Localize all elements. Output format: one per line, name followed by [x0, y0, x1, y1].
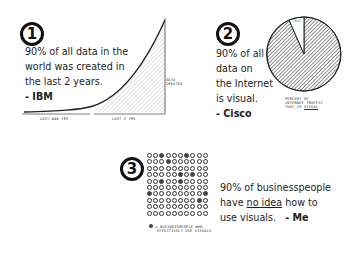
empty-dot — [159, 211, 164, 216]
empty-dot — [153, 166, 158, 171]
empty-dot — [197, 211, 202, 216]
dot-grid-legend: = BUSINESSPEOPLE WHO EFFECTIVELY USE VIS… — [149, 224, 211, 233]
filled-dot — [178, 172, 183, 177]
empty-dot — [159, 166, 164, 171]
filled-dot — [147, 191, 152, 196]
empty-dot — [172, 191, 177, 196]
empty-dot — [178, 191, 183, 196]
empty-dot — [172, 185, 177, 190]
pie-caption: PERCENT OF INTERNET TRAFFIC THAT IS VISU… — [285, 97, 323, 109]
empty-dot — [166, 185, 171, 190]
empty-dot — [184, 204, 189, 209]
empty-dot — [153, 172, 158, 177]
empty-dot — [184, 185, 189, 190]
empty-dot — [203, 185, 208, 190]
empty-dot — [166, 166, 171, 171]
filled-dot — [178, 179, 183, 184]
empty-dot — [184, 172, 189, 177]
pie-slice-label-text: TEXT — [293, 19, 301, 23]
empty-dot — [166, 198, 171, 203]
filled-dot — [166, 159, 171, 164]
empty-dot — [197, 172, 202, 177]
empty-dot — [197, 159, 202, 164]
empty-dot — [197, 179, 202, 184]
x-label-last-2-years: LAST 2 YRS — [112, 117, 136, 121]
empty-dot — [147, 185, 152, 190]
empty-dot — [153, 179, 158, 184]
empty-dot — [153, 204, 158, 209]
empty-dot — [190, 166, 195, 171]
empty-dot — [147, 204, 152, 209]
empty-dot — [197, 204, 202, 209]
empty-dot — [203, 198, 208, 203]
empty-dot — [166, 204, 171, 209]
empty-dot — [159, 198, 164, 203]
stat-cisco: 90% of all data on the Internet is visua… — [216, 46, 273, 121]
empty-dot — [190, 198, 195, 203]
empty-dot — [172, 179, 177, 184]
empty-dot — [166, 191, 171, 196]
empty-dot — [159, 172, 164, 177]
empty-dot — [166, 172, 171, 177]
empty-dot — [153, 198, 158, 203]
empty-dot — [147, 172, 152, 177]
empty-dot — [178, 166, 183, 171]
empty-dot — [147, 211, 152, 216]
empty-dot — [190, 153, 195, 158]
filled-dot — [159, 153, 164, 158]
empty-dot — [166, 153, 171, 158]
empty-dot — [166, 179, 171, 184]
empty-dot — [203, 159, 208, 164]
y-label-data-created: DATA CREATED — [166, 78, 183, 86]
empty-dot — [159, 191, 164, 196]
filled-dot — [159, 179, 164, 184]
empty-dot — [197, 166, 202, 171]
empty-dot — [153, 159, 158, 164]
empty-dot — [178, 211, 183, 216]
empty-dot — [203, 166, 208, 171]
empty-dot — [178, 185, 183, 190]
empty-dot — [172, 204, 177, 209]
empty-dot — [203, 211, 208, 216]
empty-dot — [190, 159, 195, 164]
empty-dot — [178, 198, 183, 203]
empty-dot — [184, 211, 189, 216]
empty-dot — [172, 159, 177, 164]
empty-dot — [197, 185, 202, 190]
empty-dot — [147, 198, 152, 203]
empty-dot — [184, 198, 189, 203]
empty-dot — [153, 185, 158, 190]
empty-dot — [184, 159, 189, 164]
empty-dot — [172, 211, 177, 216]
filled-dot — [184, 153, 189, 158]
empty-dot — [172, 172, 177, 177]
empty-dot — [153, 211, 158, 216]
empty-dot — [197, 153, 202, 158]
empty-dot — [190, 204, 195, 209]
empty-dot — [147, 166, 152, 171]
empty-dot — [159, 185, 164, 190]
empty-dot — [147, 153, 152, 158]
dot-grid-businesspeople — [147, 153, 209, 217]
filled-dot — [203, 191, 208, 196]
empty-dot — [184, 191, 189, 196]
x-label-last-many-years: LAST ### YRS — [40, 117, 68, 121]
growth-curve-chart — [18, 14, 168, 120]
empty-dot — [203, 179, 208, 184]
empty-dot — [178, 204, 183, 209]
filled-dot — [190, 172, 195, 177]
empty-dot — [184, 166, 189, 171]
number-badge-3: 3 — [120, 157, 144, 181]
filled-dot — [197, 198, 202, 203]
empty-dot — [147, 159, 152, 164]
empty-dot — [159, 204, 164, 209]
empty-dot — [190, 191, 195, 196]
empty-dot — [172, 166, 177, 171]
empty-dot — [153, 191, 158, 196]
number-badge-2: 2 — [216, 22, 240, 46]
empty-dot — [178, 159, 183, 164]
empty-dot — [172, 153, 177, 158]
empty-dot — [184, 179, 189, 184]
empty-dot — [178, 153, 183, 158]
empty-dot — [190, 211, 195, 216]
